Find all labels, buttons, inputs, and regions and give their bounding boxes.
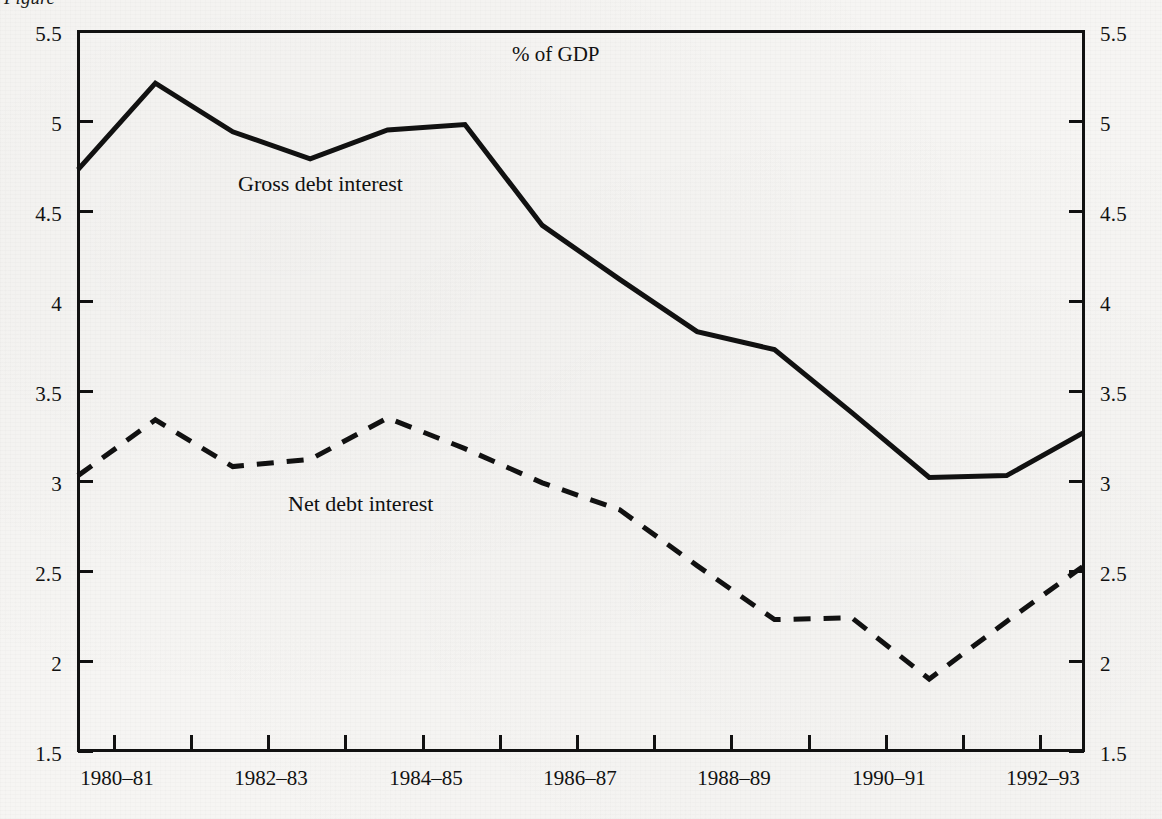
series-label-net-debt-interest: Net debt interest xyxy=(288,493,433,515)
y-axis-label-left-2.5: 2.5 xyxy=(0,564,62,585)
y-axis-label-left-2: 2 xyxy=(0,654,62,675)
y-axis-label-left-5: 5 xyxy=(0,114,62,135)
y-axis-label-right-3: 3 xyxy=(1100,474,1162,495)
series-line-gross-debt-interest xyxy=(78,83,1084,477)
y-axis-label-right-5.5: 5.5 xyxy=(1100,24,1162,45)
x-axis-label-1980-81: 1980–81 xyxy=(62,768,172,789)
chart-axes xyxy=(77,31,1085,752)
x-axis-label-1986-87: 1986–87 xyxy=(525,768,635,789)
y-axis-label-left-4.5: 4.5 xyxy=(0,204,62,225)
x-axis-label-1990-91: 1990–91 xyxy=(834,768,944,789)
line-chart-canvas xyxy=(0,0,1162,819)
y-axis-label-right-4.5: 4.5 xyxy=(1100,204,1162,225)
y-axis-label-right-2: 2 xyxy=(1100,654,1162,675)
y-axis-label-right-4: 4 xyxy=(1100,294,1162,315)
y-axis-label-left-3: 3 xyxy=(0,474,62,495)
y-axis-label-right-3.5: 3.5 xyxy=(1100,384,1162,405)
y-axis-label-left-4: 4 xyxy=(0,294,62,315)
y-axis-label-right-2.5: 2.5 xyxy=(1100,564,1162,585)
y-axis-label-left-1.5: 1.5 xyxy=(0,744,62,765)
y-axis-ticks xyxy=(78,31,1084,751)
figure-caption-fragment: Figure xyxy=(4,0,55,9)
x-axis-label-1992-93: 1992–93 xyxy=(988,768,1098,789)
x-axis-ticks xyxy=(114,735,1040,751)
chart-unit-label: % of GDP xyxy=(512,44,600,65)
y-axis-label-right-1.5: 1.5 xyxy=(1100,744,1162,765)
y-axis-label-left-3.5: 3.5 xyxy=(0,384,62,405)
y-axis-label-right-5: 5 xyxy=(1100,114,1162,135)
chart-figure: % of GDP Gross debt interest Net debt in… xyxy=(0,0,1162,819)
x-axis-label-1984-85: 1984–85 xyxy=(371,768,481,789)
x-axis-label-1982-83: 1982–83 xyxy=(216,768,326,789)
x-axis-label-1988-89: 1988–89 xyxy=(679,768,789,789)
series-line-net-debt-interest xyxy=(78,418,1084,679)
series-label-gross-debt-interest: Gross debt interest xyxy=(238,173,403,195)
y-axis-label-left-5.5: 5.5 xyxy=(0,24,62,45)
